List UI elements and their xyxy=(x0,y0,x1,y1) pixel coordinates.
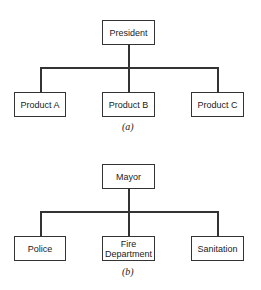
connector xyxy=(40,67,219,69)
connector xyxy=(40,211,219,213)
caption-a: (a) xyxy=(122,121,134,132)
connector xyxy=(217,211,219,236)
connector xyxy=(40,211,42,236)
caption-b: (b) xyxy=(122,266,134,277)
node-product-b: Product B xyxy=(102,92,155,117)
node-fire-department: Fire Department xyxy=(102,236,155,261)
node-police: Police xyxy=(14,236,66,261)
connector xyxy=(217,67,219,92)
node-mayor: Mayor xyxy=(102,164,155,189)
node-president: President xyxy=(102,20,155,45)
node-sanitation: Sanitation xyxy=(191,236,244,261)
connector xyxy=(40,67,42,92)
node-product-a: Product A xyxy=(14,92,66,117)
node-product-c: Product C xyxy=(191,92,244,117)
